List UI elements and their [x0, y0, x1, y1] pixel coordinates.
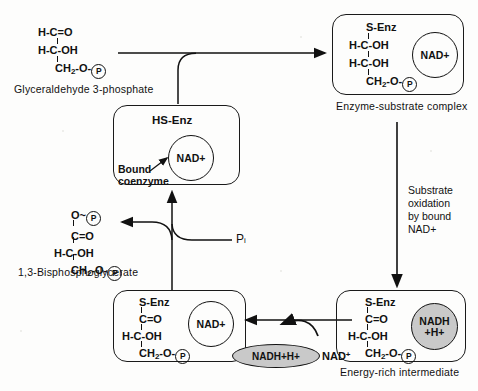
er-o-link: -O- [385, 347, 401, 359]
es-nad-circle: NAD+ [412, 32, 458, 78]
th-ch2-text: CH [139, 347, 155, 359]
energy-rich-nadh-line-2: +H+ [425, 327, 445, 338]
es-bond-1 [368, 33, 369, 39]
energy-rich-structure: S-Enz C=O H-C-OH CH2-O-P [348, 296, 416, 364]
er-line-2: C=O [365, 313, 416, 326]
es-o-link: -O- [386, 75, 402, 87]
pr-line-1: O~P [71, 209, 122, 226]
scan-speck [62, 130, 64, 132]
phosphate-icon: P [86, 211, 101, 226]
er-bond-3 [367, 341, 368, 347]
thioester-nad-label: NAD+ [197, 319, 226, 330]
oxidation-note-line-4: NAD+ [408, 223, 453, 236]
er-bond-1 [367, 307, 368, 313]
scan-speck [300, 36, 302, 38]
es-line-1: S-Enz [366, 21, 417, 34]
es-complex-caption: Enzyme-substrate complex [336, 100, 467, 112]
er-line-4: CH2-O-P [365, 347, 416, 364]
th-line-2: C=O [139, 313, 190, 326]
inorganic-phosphate-label: Pi [236, 232, 246, 246]
th-bond-1 [141, 307, 142, 313]
er-line-1: S-Enz [365, 296, 416, 309]
pr-line-3: H-C-OH [54, 247, 122, 260]
th-bond-3 [141, 341, 142, 347]
scan-speck [280, 270, 282, 272]
pr-bond-2 [73, 237, 74, 243]
es-ch2-text: CH [366, 75, 382, 87]
es-complex-structure: S-Enz H-C-OH H-C-OH CH2-O-P [349, 21, 417, 92]
scan-speck [20, 330, 22, 332]
bound-coenzyme-annotation: Bound coenzyme [118, 163, 169, 187]
pr-bond-3 [73, 254, 74, 260]
pr-line-2: C=O [71, 230, 122, 243]
th-line-1: S-Enz [139, 296, 190, 309]
phosphate-icon: P [402, 77, 417, 92]
thioester-nad-circle: NAD+ [188, 301, 234, 347]
oxidation-note-line-3: by bound [408, 210, 453, 223]
reaction-diagram: H-C=O H-C-OH CH2-O-P Glyceraldehyde 3-ph… [0, 0, 478, 391]
phosphate-icon: P [401, 349, 416, 364]
pr-bond-1 [73, 220, 74, 226]
er-ch2-text: CH [365, 347, 381, 359]
es-bond-2 [368, 51, 369, 57]
er-line-3: H-C-OH [348, 330, 416, 343]
th-line-4: CH2-O-P [139, 347, 190, 364]
oxidation-note-line-1: Substrate [408, 184, 453, 197]
es-line-2: H-C-OH [349, 39, 417, 52]
product-label: 1,3-Bisphosphoglycerate [18, 266, 138, 278]
nadh-released-badge: NADH+H+ [232, 344, 320, 368]
nad-incoming-label: NAD+ [322, 348, 351, 363]
energy-rich-nadh-circle: NADH +H+ [411, 303, 458, 350]
oxidation-note-line-2: oxidation [408, 197, 453, 210]
bound-coenzyme-line-2: coenzyme [118, 175, 169, 187]
th-bond-2 [141, 324, 142, 330]
thioester-structure: S-Enz C=O H-C-OH CH2-O-P [122, 296, 190, 364]
th-o-link: -O- [159, 347, 175, 359]
es-line-3: H-C-OH [349, 57, 417, 70]
energy-rich-caption: Energy-rich intermediate [340, 366, 459, 378]
phosphate-icon: P [175, 349, 190, 364]
oxidation-note: Substrate oxidation by bound NAD+ [408, 184, 453, 236]
nadh-released-label: NADH+H+ [252, 351, 300, 362]
er-bond-2 [367, 324, 368, 330]
scan-speck [430, 150, 432, 152]
es-nad-label: NAD+ [421, 50, 450, 61]
es-line-4: CH2-O-P [366, 75, 417, 92]
es-bond-3 [368, 69, 369, 75]
th-line-3: H-C-OH [122, 330, 190, 343]
bound-coenzyme-line-1: Bound [118, 163, 169, 175]
